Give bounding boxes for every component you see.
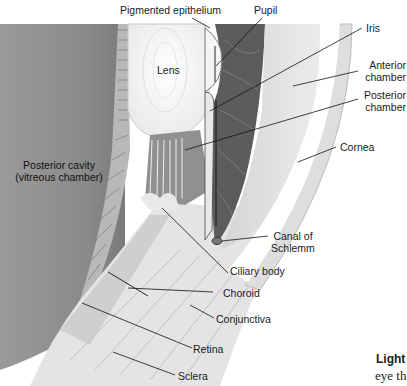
label-choroid: Choroid — [223, 287, 260, 299]
label-pupil: Pupil — [254, 4, 277, 16]
lens — [128, 24, 209, 140]
label-retina: Retina — [193, 343, 223, 355]
label-canal-of-schlemm: Canal of Schlemm — [268, 230, 318, 254]
label-ciliary-body: Ciliary body — [230, 265, 285, 277]
label-sclera: Sclera — [178, 370, 208, 382]
label-iris: Iris — [366, 22, 380, 34]
label-conjunctiva: Conjunctiva — [216, 313, 271, 325]
caption-text-fragment: eye th — [375, 368, 406, 384]
caption-bold-fragment: Light — [376, 352, 405, 366]
label-posterior-cavity: Posterior cavity (vitreous chamber) — [14, 159, 104, 183]
label-cornea: Cornea — [340, 141, 374, 153]
eye-anatomy-illustration — [0, 0, 407, 386]
label-posterior-chamber: Posterior chamber — [350, 89, 406, 113]
label-anterior-chamber: Anterior chamber — [354, 59, 406, 83]
label-pigmented-epithelium: Pigmented epithelium — [120, 4, 221, 16]
canal-of-schlemm — [212, 238, 222, 245]
ciliary-body — [145, 130, 210, 205]
label-lens: Lens — [157, 64, 180, 76]
